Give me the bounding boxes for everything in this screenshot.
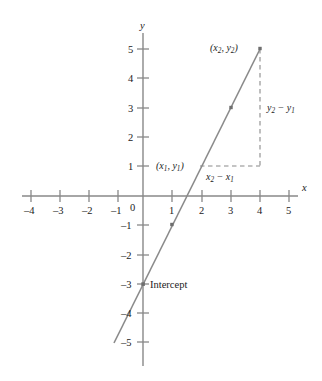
graph-figure: x y 0 –4 –3 –2 –1 1 2 3 4 5 5 4 3 2 1 –1… xyxy=(0,0,322,381)
y-axis-label: y xyxy=(139,20,145,31)
run-label-minus: − x xyxy=(214,171,231,182)
marker-point-intercept xyxy=(141,282,145,286)
rise-label-minus: − y xyxy=(275,102,292,113)
x-tick-label-3: 3 xyxy=(228,205,233,216)
y-tick-label--3: –3 xyxy=(120,279,132,290)
rise-label-sub-1: 1 xyxy=(291,107,295,115)
point-1-label: (x1, y1) xyxy=(156,160,184,173)
y-tick-label-1: 1 xyxy=(128,161,133,172)
intercept-label: Intercept xyxy=(150,279,187,290)
x-tick-label--2: –2 xyxy=(81,205,93,216)
rise-label: y2 − y1 xyxy=(266,102,295,115)
marker-point-3-3 xyxy=(229,106,232,109)
y-tick-label-4: 4 xyxy=(128,73,134,84)
x-axis-label: x xyxy=(301,182,307,193)
x-tick-label-5: 5 xyxy=(286,205,291,216)
x-tick-label--1: –1 xyxy=(110,205,122,216)
run-label: x2 − x1 xyxy=(205,171,234,184)
y-tick-label--5: –5 xyxy=(120,337,132,348)
y-tick-label--2: –2 xyxy=(120,250,132,261)
y-tick-label-2: 2 xyxy=(128,132,133,143)
y-tick-label-5: 5 xyxy=(128,44,133,55)
axes-group xyxy=(22,33,298,366)
point-1-label-close: ) xyxy=(179,160,184,172)
run-label-sub-1: 1 xyxy=(230,176,234,184)
y-tick-label-3: 3 xyxy=(128,103,133,114)
x-tick-label-2: 2 xyxy=(199,205,204,216)
point-2-label: (x2, y2) xyxy=(210,42,238,55)
y-tick-label--1: –1 xyxy=(120,220,132,231)
x-tick-labels: –4 –3 –2 –1 1 2 3 4 5 xyxy=(23,205,291,216)
y-tick-label--4: –4 xyxy=(120,308,132,319)
x-tick-label--3: –3 xyxy=(52,205,64,216)
marker-point-4-5 xyxy=(258,47,261,50)
marker-point-1-1 xyxy=(170,223,173,226)
point-2-label-close: ) xyxy=(233,42,238,54)
origin-label: 0 xyxy=(130,202,135,213)
x-tick-label-1: 1 xyxy=(169,205,174,216)
x-tick-label--4: –4 xyxy=(23,205,35,216)
x-tick-label-4: 4 xyxy=(257,205,263,216)
coordinate-plane-svg: x y 0 –4 –3 –2 –1 1 2 3 4 5 5 4 3 2 1 –1… xyxy=(0,0,322,381)
